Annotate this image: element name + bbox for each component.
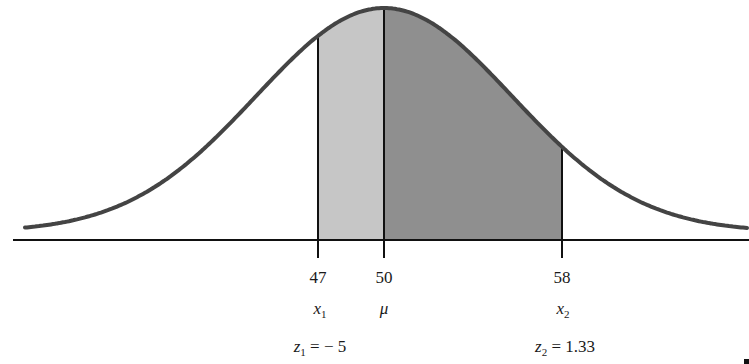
z2-label: z2 = 1.33 [535,337,595,358]
tick-label-x2: 58 [554,268,571,288]
symbol-x1: x1 [313,299,326,320]
tick-label-mu: 50 [376,268,393,288]
shaded-area-x1-to-mu [318,8,384,240]
normal-curve-diagram [0,0,749,364]
corner-mark [744,359,749,364]
symbol-mu: μ [380,299,389,319]
shaded-area-mu-to-x2 [384,8,562,240]
symbol-x2: x2 [556,299,569,320]
tick-label-x1: 47 [310,268,327,288]
z1-label: z1 = − 5 [294,337,347,358]
